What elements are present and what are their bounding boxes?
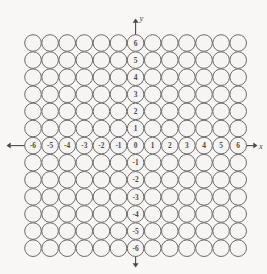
grid-circle[interactable]: [179, 240, 196, 257]
grid-circle[interactable]: [25, 172, 42, 189]
grid-circle[interactable]: [230, 69, 247, 86]
grid-circle[interactable]: [144, 240, 161, 257]
grid-circle[interactable]: [76, 240, 93, 257]
grid-circle[interactable]: [230, 172, 247, 189]
grid-circle[interactable]: [179, 172, 196, 189]
grid-circle[interactable]: [230, 120, 247, 137]
grid-circle[interactable]: [162, 206, 179, 223]
grid-circle[interactable]: [230, 206, 247, 223]
grid-circle[interactable]: [76, 189, 93, 206]
grid-circle[interactable]: [230, 52, 247, 69]
grid-circle[interactable]: [93, 189, 110, 206]
grid-circle[interactable]: [213, 120, 230, 137]
grid-circle[interactable]: [42, 69, 59, 86]
grid-circle[interactable]: [179, 223, 196, 240]
grid-circle[interactable]: [179, 189, 196, 206]
grid-circle[interactable]: [196, 69, 213, 86]
grid-circle[interactable]: [93, 223, 110, 240]
grid-circle[interactable]: [144, 86, 161, 103]
grid-circle[interactable]: [196, 240, 213, 257]
grid-circle[interactable]: [213, 35, 230, 52]
grid-circle[interactable]: [110, 52, 127, 69]
grid-circle[interactable]: [196, 52, 213, 69]
grid-circle[interactable]: [196, 206, 213, 223]
grid-circle[interactable]: [162, 120, 179, 137]
grid-circle[interactable]: [42, 154, 59, 171]
grid-circle[interactable]: [42, 206, 59, 223]
grid-circle[interactable]: [76, 35, 93, 52]
grid-circle[interactable]: [144, 154, 161, 171]
grid-circle[interactable]: [179, 35, 196, 52]
grid-circle[interactable]: [42, 172, 59, 189]
grid-circle[interactable]: [196, 189, 213, 206]
grid-circle[interactable]: [110, 206, 127, 223]
grid-circle[interactable]: [110, 189, 127, 206]
grid-circle[interactable]: [144, 189, 161, 206]
grid-circle[interactable]: [42, 189, 59, 206]
grid-circle[interactable]: [230, 223, 247, 240]
grid-circle[interactable]: [230, 35, 247, 52]
grid-circle[interactable]: [25, 103, 42, 120]
grid-circle[interactable]: [196, 35, 213, 52]
grid-circle[interactable]: [110, 120, 127, 137]
grid-circle[interactable]: [76, 172, 93, 189]
grid-circle[interactable]: [93, 206, 110, 223]
grid-circle[interactable]: [42, 240, 59, 257]
grid-circle[interactable]: [93, 69, 110, 86]
grid-circle[interactable]: [110, 154, 127, 171]
grid-circle[interactable]: [230, 103, 247, 120]
grid-circle[interactable]: [59, 103, 76, 120]
grid-circle[interactable]: [162, 86, 179, 103]
grid-circle[interactable]: [144, 103, 161, 120]
grid-circle[interactable]: [162, 172, 179, 189]
grid-circle[interactable]: [42, 223, 59, 240]
grid-circle[interactable]: [179, 86, 196, 103]
grid-circle[interactable]: [59, 189, 76, 206]
grid-circle[interactable]: [110, 240, 127, 257]
grid-circle[interactable]: [179, 206, 196, 223]
grid-circle[interactable]: [25, 206, 42, 223]
grid-circle[interactable]: [59, 52, 76, 69]
grid-circle[interactable]: [76, 223, 93, 240]
grid-circle[interactable]: [230, 189, 247, 206]
grid-circle[interactable]: [93, 120, 110, 137]
grid-circle[interactable]: [59, 154, 76, 171]
grid-circle[interactable]: [59, 86, 76, 103]
grid-circle[interactable]: [25, 240, 42, 257]
grid-circle[interactable]: [25, 69, 42, 86]
grid-circle[interactable]: [25, 189, 42, 206]
grid-circle[interactable]: [93, 172, 110, 189]
grid-circle[interactable]: [213, 69, 230, 86]
grid-circle[interactable]: [25, 86, 42, 103]
grid-circle[interactable]: [230, 154, 247, 171]
grid-circle[interactable]: [76, 206, 93, 223]
grid-circle[interactable]: [213, 103, 230, 120]
grid-circle[interactable]: [144, 120, 161, 137]
grid-circle[interactable]: [110, 35, 127, 52]
grid-circle[interactable]: [230, 240, 247, 257]
grid-circle[interactable]: [93, 240, 110, 257]
grid-circle[interactable]: [42, 103, 59, 120]
grid-circle[interactable]: [144, 52, 161, 69]
grid-circle[interactable]: [25, 154, 42, 171]
grid-circle[interactable]: [42, 86, 59, 103]
grid-circle[interactable]: [162, 189, 179, 206]
grid-circle[interactable]: [162, 154, 179, 171]
grid-circle[interactable]: [93, 154, 110, 171]
grid-circle[interactable]: [76, 69, 93, 86]
grid-circle[interactable]: [144, 172, 161, 189]
grid-circle[interactable]: [162, 35, 179, 52]
grid-circle[interactable]: [25, 35, 42, 52]
grid-circle[interactable]: [196, 172, 213, 189]
grid-circle[interactable]: [213, 223, 230, 240]
grid-circle[interactable]: [76, 120, 93, 137]
grid-circle[interactable]: [76, 86, 93, 103]
grid-circle[interactable]: [230, 86, 247, 103]
grid-circle[interactable]: [196, 86, 213, 103]
grid-circle[interactable]: [59, 240, 76, 257]
grid-circle[interactable]: [213, 189, 230, 206]
grid-circle[interactable]: [144, 206, 161, 223]
grid-circle[interactable]: [213, 206, 230, 223]
grid-circle[interactable]: [25, 223, 42, 240]
grid-circle[interactable]: [196, 223, 213, 240]
